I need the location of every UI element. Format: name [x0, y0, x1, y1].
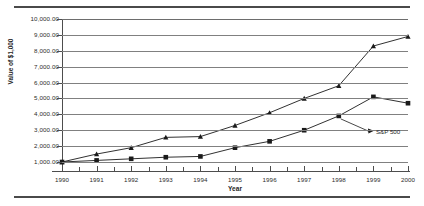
x-axis-minor-tick	[287, 167, 288, 171]
x-axis-tick	[408, 166, 409, 172]
x-axis-tick-label: 1996	[263, 176, 277, 183]
series-marker	[198, 154, 203, 159]
x-axis-tick-label: 1993	[159, 176, 173, 183]
y-axis-tick	[57, 130, 62, 131]
series-layer	[62, 19, 408, 162]
gridline	[62, 19, 408, 20]
y-axis-tick-label: 10,000.00	[31, 15, 59, 22]
x-axis-tick-label: 2000	[401, 176, 415, 183]
y-axis-tick-label: 4,000.00	[34, 110, 59, 117]
y-axis-tick	[57, 146, 62, 147]
x-axis-minor-tick	[218, 167, 219, 171]
x-axis-tick-label: 1997	[297, 176, 311, 183]
y-axis-tick-label: 9,000.00	[34, 31, 59, 38]
series-marker	[406, 101, 411, 106]
gridline	[62, 98, 408, 99]
bottom-border-rule	[14, 196, 410, 198]
x-axis-tick-label: 1991	[90, 176, 104, 183]
y-axis-tick	[57, 98, 62, 99]
x-axis-tick-label: 1990	[55, 176, 69, 183]
chart-figure: 1,000.002,000.003,000.004,000.005,000.00…	[0, 0, 424, 206]
x-axis-minor-tick	[149, 167, 150, 171]
gridline	[62, 67, 408, 68]
y-axis-tick	[57, 51, 62, 52]
x-axis-tick-label: 1998	[332, 176, 346, 183]
x-axis-tick	[131, 166, 132, 172]
y-axis-tick	[57, 114, 62, 115]
y-axis-tick-label: 7,000.00	[34, 63, 59, 70]
x-axis-tick-label: 1999	[366, 176, 380, 183]
x-axis-tick	[235, 166, 236, 172]
x-axis-tick-label: 1995	[228, 176, 242, 183]
gridline	[62, 35, 408, 36]
x-axis-title: Year	[62, 185, 408, 192]
y-axis-tick-label: 5,000.00	[34, 94, 59, 101]
y-axis-tick	[57, 162, 62, 163]
x-axis-tick	[166, 166, 167, 172]
y-axis-tick	[57, 83, 62, 84]
y-axis-tick	[57, 35, 62, 36]
y-axis-tick-label: 3,000.00	[34, 126, 59, 133]
gridline	[62, 146, 408, 147]
series-marker	[164, 155, 169, 160]
x-axis-tick	[304, 166, 305, 172]
y-axis-tick-label: 2,000.00	[34, 142, 59, 149]
x-axis-tick	[339, 166, 340, 172]
y-axis-title: Value of $1,000	[7, 12, 14, 112]
gridline	[62, 162, 408, 163]
series-marker	[267, 139, 272, 144]
gridline	[62, 51, 408, 52]
x-axis-minor-tick	[183, 167, 184, 171]
x-axis-minor-tick	[391, 167, 392, 171]
plot-area	[62, 19, 408, 162]
x-axis-line	[52, 171, 410, 172]
x-axis-tick	[270, 166, 271, 172]
y-axis-tick-label: 1,000.00	[34, 158, 59, 165]
y-axis-tick-label: 8,000.00	[34, 47, 59, 54]
x-axis-tick	[373, 166, 374, 172]
y-axis-tick	[57, 67, 62, 68]
series-marker	[129, 157, 134, 162]
x-axis-tick-label: 1992	[124, 176, 138, 183]
x-axis-tick-label: 1994	[193, 176, 207, 183]
series-annotation-sp500: S&P 500	[376, 128, 400, 135]
x-axis-minor-tick	[356, 167, 357, 171]
gridline	[62, 83, 408, 84]
x-axis-minor-tick	[114, 167, 115, 171]
x-axis-tick	[200, 166, 201, 172]
x-axis-minor-tick	[79, 167, 80, 171]
x-axis-minor-tick	[322, 167, 323, 171]
gridline	[62, 114, 408, 115]
x-axis-tick	[62, 166, 63, 172]
x-axis-minor-tick	[252, 167, 253, 171]
top-border-rule	[14, 6, 410, 8]
y-axis-tick	[57, 19, 62, 20]
x-axis-tick	[97, 166, 98, 172]
gridline	[62, 130, 408, 131]
y-axis-tick-label: 6,000.00	[34, 79, 59, 86]
